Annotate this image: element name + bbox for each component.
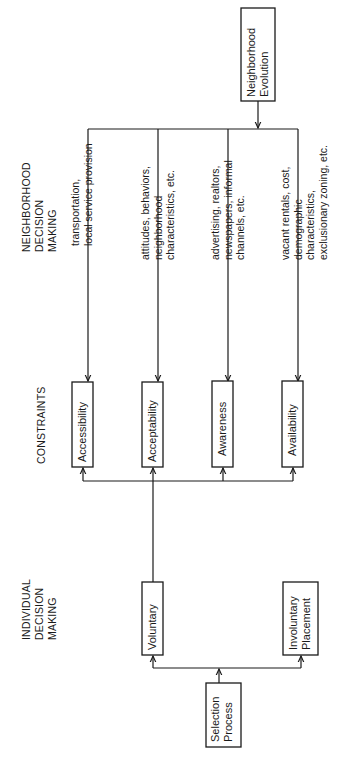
annotation-line: newspapers, informal: [222, 160, 234, 260]
svg-text:CONSTRAINTS: CONSTRAINTS: [35, 387, 47, 464]
heading-constraints: CONSTRAINTS: [35, 387, 47, 464]
svg-text:NEIGHBORHOOD DECISION: NEIGHBORHOOD DECISION MAKING: [20, 159, 58, 252]
node-accessibility: Accessibility: [72, 382, 93, 467]
node-label: Awareness: [216, 401, 228, 456]
svg-text:Voluntary: Voluntary: [146, 604, 158, 650]
node-availability: Availability: [282, 381, 303, 467]
svg-text:transportation, local se: transportation, local service provision: [69, 143, 94, 246]
svg-text:advertising, realtors, n: advertising, realtors, newspapers, infor…: [209, 157, 246, 260]
heading-line: DECISION: [33, 200, 45, 252]
annotation-line: vacant rentals, cost,: [279, 167, 291, 260]
heading-individual-decision-making: INDIVIDUAL DECISION MAKING: [20, 576, 58, 640]
node-label: Placement: [300, 598, 312, 650]
node-label: Accessibility: [76, 402, 88, 462]
node-label: Availability: [286, 404, 298, 456]
annotation-line: transportation,: [69, 179, 81, 246]
annotation-line: neighborhood: [152, 196, 164, 260]
annotation-awareness: advertising, realtors, newspapers, infor…: [209, 157, 246, 260]
heading-line: INDIVIDUAL: [20, 579, 32, 640]
annotation-line: demographic: [292, 199, 304, 260]
annotation-line: characteristics, etc.: [164, 170, 176, 260]
heading-line: CONSTRAINTS: [35, 387, 47, 464]
svg-text:Involuntary Placement: Involuntary Placement: [287, 593, 312, 650]
annotation-line: channels, etc.: [234, 195, 246, 260]
annotation-line: attitudes, behaviors,: [139, 166, 151, 260]
node-label: Process: [222, 702, 234, 742]
svg-text:INDIVIDUAL DECISION: INDIVIDUAL DECISION MAKING: [20, 576, 58, 640]
heading-line: DECISION: [33, 588, 45, 640]
node-label: Neighborhood: [245, 28, 257, 97]
node-label: Voluntary: [146, 604, 158, 650]
node-voluntary: Voluntary: [142, 582, 163, 655]
annotation-line: local service provision: [82, 143, 94, 246]
heading-line: MAKING: [46, 597, 58, 640]
heading-line: NEIGHBORHOOD: [20, 162, 32, 252]
neighborhood-selection-diagram: NEIGHBORHOOD DECISION MAKING CONSTRAINTS…: [0, 0, 350, 761]
node-label: Acceptability: [146, 400, 158, 462]
annotation-line: advertising, realtors,: [209, 165, 221, 260]
node-awareness: Awareness: [212, 381, 233, 467]
svg-text:Accessibility: Accessibility: [76, 402, 88, 462]
annotation-availability: vacant rentals, cost, demographic charac…: [279, 145, 329, 260]
node-label: Evolution: [258, 52, 270, 97]
node-involuntary-placement: Involuntary Placement: [283, 582, 318, 655]
svg-text:Availability: Availability: [286, 404, 298, 456]
heading-line: MAKING: [46, 209, 58, 252]
annotation-line: characteristics,: [304, 190, 316, 260]
node-neighborhood-evolution: Neighborhood Evolution: [241, 8, 275, 101]
node-label: Selection: [209, 697, 221, 742]
svg-text:Acceptability: Acceptability: [146, 400, 158, 462]
node-label: Involuntary: [287, 596, 299, 650]
svg-text:Awareness: Awareness: [216, 401, 228, 456]
heading-neighborhood-decision-making: NEIGHBORHOOD DECISION MAKING: [20, 159, 58, 252]
annotation-line: exclusionary zoning, etc.: [317, 145, 329, 260]
node-selection-process: Selection Process: [206, 683, 241, 747]
node-acceptability: Acceptability: [142, 382, 163, 467]
diagram-canvas: NEIGHBORHOOD DECISION MAKING CONSTRAINTS…: [0, 0, 350, 761]
svg-text:vacant rentals, cost, de: vacant rentals, cost, demographic charac…: [279, 145, 329, 260]
annotation-accessibility: transportation, local service provision: [69, 143, 94, 246]
